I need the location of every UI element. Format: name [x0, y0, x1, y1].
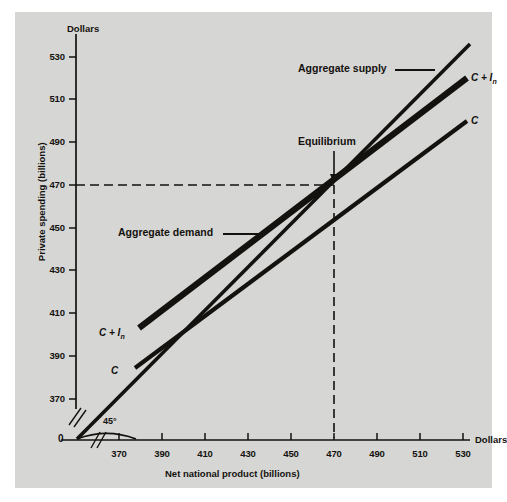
x-tick-label-450: 450 — [279, 449, 303, 459]
left-c-label: C — [111, 366, 118, 376]
aggregate-demand-label: Aggregate demand — [118, 227, 213, 238]
c-plus-in-line — [139, 78, 467, 328]
aggregate-supply-line — [77, 44, 470, 439]
x-tick-label-470: 470 — [322, 449, 346, 459]
y-tick-label-410: 410 — [43, 308, 65, 318]
y-tick-label-390: 390 — [43, 351, 65, 361]
y-axis-break-marks — [69, 408, 86, 427]
left-c-plus-in-main: C + I — [99, 327, 120, 338]
right-c-label: C — [471, 116, 478, 126]
y-tick-label-530: 530 — [43, 52, 65, 62]
right-c-plus-in-sub: n — [492, 78, 496, 85]
x-tick-label-490: 490 — [365, 449, 389, 459]
left-c-plus-in-sub: n — [120, 333, 124, 340]
y-axis-title: Private spending (billions) — [37, 127, 47, 277]
angle-45-label: 45° — [103, 417, 117, 426]
c-line — [135, 121, 467, 368]
angle-arc — [77, 434, 136, 439]
x-tick-label-370: 370 — [107, 449, 131, 459]
right-c-plus-in-main: C + I — [471, 72, 492, 83]
x-tick-label-510: 510 — [408, 449, 432, 459]
x-axis-header-label: Dollars — [475, 435, 507, 445]
y-tick-label-370: 370 — [43, 394, 65, 404]
y-axis-header-label: Dollars — [67, 24, 99, 34]
x-tick-label-530: 530 — [451, 449, 475, 459]
aggregate-supply-label: Aggregate supply — [298, 63, 387, 74]
figure-container: Dollars 530 510 490 470 450 430 410 390 … — [0, 0, 507, 502]
y-tick-label-510: 510 — [43, 94, 65, 104]
right-c-plus-in-label: C + In — [471, 73, 497, 85]
x-axis-ticks — [119, 433, 463, 440]
origin-label: 0 — [58, 434, 64, 444]
x-axis-title: Net national product (billions) — [165, 469, 300, 479]
chart-panel: Dollars 530 510 490 470 450 430 410 390 … — [15, 12, 492, 488]
equilibrium-label: Equilibrium — [298, 136, 356, 147]
x-tick-label-430: 430 — [236, 449, 260, 459]
x-tick-label-410: 410 — [193, 449, 217, 459]
x-tick-label-390: 390 — [150, 449, 174, 459]
chart-plot-area — [15, 12, 492, 488]
y-axis-ticks — [69, 57, 76, 399]
left-c-plus-in-label: C + In — [99, 328, 125, 340]
